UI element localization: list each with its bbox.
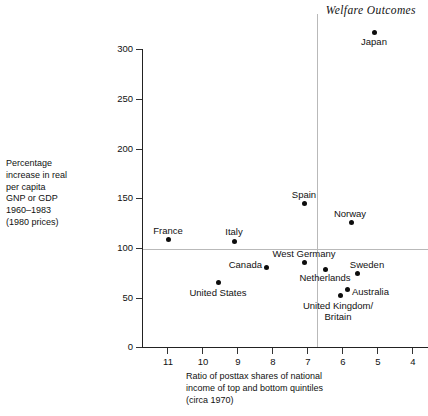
y-tick-label-250: 250	[103, 93, 133, 104]
x-tick-4	[412, 348, 413, 354]
x-tick-label-4: 4	[402, 356, 424, 367]
y-tick-250	[136, 99, 142, 100]
x-tick-label-5: 5	[367, 356, 389, 367]
y-tick-label-100: 100	[103, 242, 133, 253]
y-axis-caption-line-3: per capita	[6, 182, 110, 194]
data-point-united-kingdom	[338, 293, 343, 298]
data-point-sweden	[355, 271, 360, 276]
data-label-united-kingdom-line-2: Britain	[298, 311, 378, 322]
data-point-japan	[372, 30, 377, 35]
y-tick-label-0: 0	[103, 341, 133, 352]
data-label-france: France	[146, 225, 190, 236]
data-label-australia: Australia	[352, 286, 402, 297]
y-tick-0	[136, 347, 142, 348]
y-axis-line	[142, 49, 143, 348]
x-tick-6	[342, 348, 343, 354]
y-tick-200	[136, 149, 142, 150]
data-point-west-germany	[302, 260, 307, 265]
scatter-chart: Welfare Outcomes Percentage increase in …	[0, 0, 428, 416]
data-label-sweden: Sweden	[344, 259, 390, 270]
y-axis-caption-line-2: increase in real	[6, 170, 110, 182]
y-tick-100	[136, 248, 142, 249]
x-tick-label-11: 11	[157, 356, 179, 367]
x-tick-9	[237, 348, 238, 354]
data-point-canada	[264, 265, 269, 270]
x-tick-label-8: 8	[262, 356, 284, 367]
data-label-canada: Canada	[218, 259, 262, 270]
data-point-netherlands	[323, 267, 328, 272]
data-point-france	[166, 237, 171, 242]
y-tick-150	[136, 198, 142, 199]
y-tick-label-50: 50	[103, 292, 133, 303]
data-label-west-germany: West Germany	[268, 248, 340, 259]
data-point-italy	[232, 239, 237, 244]
x-axis-caption-line-3: (circa 1970)	[186, 395, 406, 407]
data-label-united-kingdom-line-1: United Kingdom/	[298, 300, 378, 311]
data-point-norway	[349, 220, 354, 225]
y-axis-caption: Percentage increase in real per capita G…	[6, 158, 110, 229]
y-tick-label-200: 200	[103, 143, 133, 154]
data-label-italy: Italy	[216, 226, 252, 237]
x-tick-label-9: 9	[227, 356, 249, 367]
x-tick-7	[307, 348, 308, 354]
y-tick-label-150: 150	[103, 192, 133, 203]
x-tick-10	[202, 348, 203, 354]
x-axis-line	[142, 347, 428, 348]
y-axis-caption-line-6: (1980 prices)	[6, 217, 110, 229]
y-axis-caption-line-5: 1960–1983	[6, 205, 110, 217]
x-tick-8	[272, 348, 273, 354]
data-label-japan: Japan	[354, 36, 394, 47]
x-tick-label-7: 7	[297, 356, 319, 367]
y-tick-300	[136, 49, 142, 50]
x-tick-5	[377, 348, 378, 354]
chart-title: Welfare Outcomes	[326, 4, 416, 16]
x-tick-11	[167, 348, 168, 354]
y-axis-caption-line-4: GNP or GDP	[6, 193, 110, 205]
data-point-australia	[345, 287, 350, 292]
data-label-norway: Norway	[327, 208, 373, 219]
y-tick-50	[136, 298, 142, 299]
data-label-spain: Spain	[284, 189, 324, 200]
data-label-united-states: United States	[186, 287, 250, 298]
x-tick-label-10: 10	[192, 356, 214, 367]
x-axis-caption-line-2: income of top and bottom quintiles	[186, 383, 406, 395]
x-tick-label-6: 6	[332, 356, 354, 367]
y-tick-label-300: 300	[103, 43, 133, 54]
data-point-spain	[302, 201, 307, 206]
x-axis-caption: Ratio of posttax shares of national inco…	[186, 371, 406, 406]
data-point-united-states	[216, 280, 221, 285]
reference-line-vertical	[317, 14, 318, 347]
data-label-netherlands: Netherlands	[293, 272, 357, 283]
x-axis-caption-line-1: Ratio of posttax shares of national	[186, 371, 406, 383]
y-axis-caption-line-1: Percentage	[6, 158, 110, 170]
